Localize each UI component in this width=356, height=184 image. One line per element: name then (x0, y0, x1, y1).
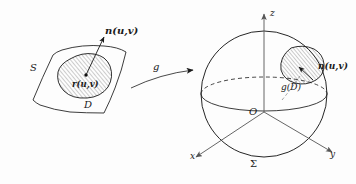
region-label-D: D (84, 100, 92, 110)
image-region-label-gD: g(D) (281, 83, 301, 92)
point-label-r: r(u,v) (72, 80, 99, 89)
origin-label-O: O (249, 107, 257, 117)
normal-label-left: n(u,v) (105, 26, 138, 36)
axis-label-z: z (270, 9, 275, 18)
axis-label-y: y (330, 150, 335, 159)
diagram-canvas (0, 0, 356, 184)
map-label-g: g (153, 62, 159, 72)
surface-parametrization-diagram: n(u,v) S r(u,v) D g z n(u,v) g(D) O x Σ … (0, 0, 356, 184)
surface-label-S: S (30, 63, 37, 73)
sphere-sigma (196, 14, 332, 157)
surface-label-sigma: Σ (250, 159, 257, 169)
axis-label-x: x (190, 152, 195, 161)
map-arrow-g (131, 70, 193, 88)
normal-label-sphere: n(u,v) (318, 62, 348, 71)
